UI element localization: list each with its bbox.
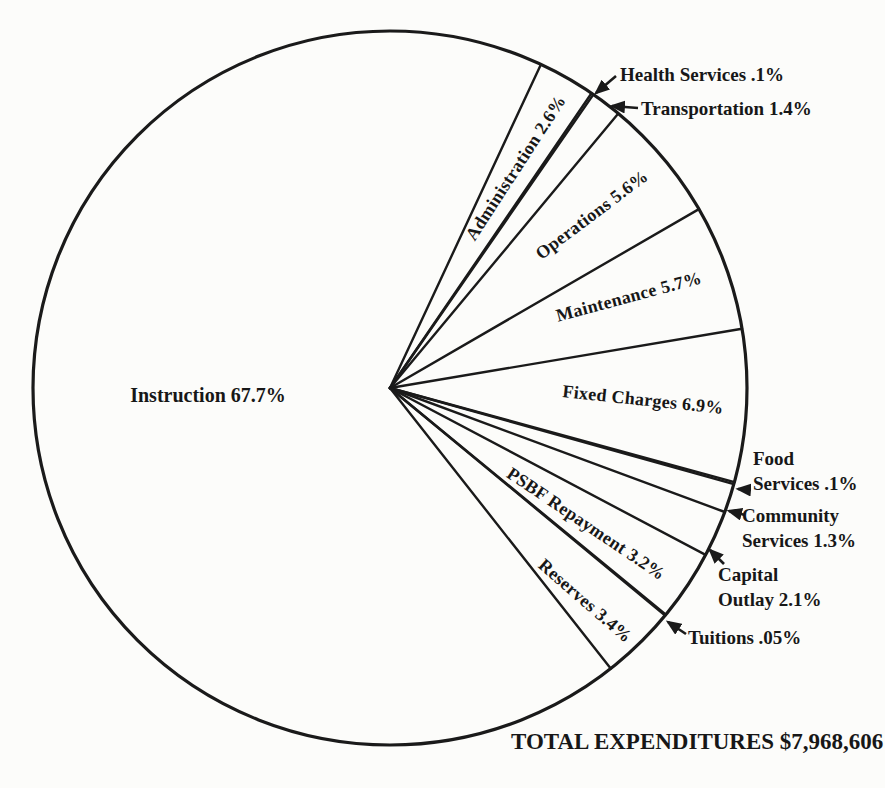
callout-label-food-services-line2: Services .1% [753,471,857,496]
callout-label-community-services-line2: Services 1.3% [742,528,856,553]
callout-label-capital-outlay-line1: Capital [718,562,821,587]
total-expenditures-label: TOTAL EXPENDITURES $7,968,606 [511,729,883,755]
transportation-arrow [612,106,638,108]
slice-boundary-line [390,114,618,388]
tuitions-arrow [668,622,686,634]
callout-label-community-services-line1: Community [742,503,856,528]
callout-label-tuitions: Tuitions .05% [688,625,801,650]
callout-label-food-services-line1: Food [753,446,857,471]
callout-label-food-services: Food Services .1% [753,446,857,496]
slice-boundary-line [390,388,665,616]
health-services-arrow [596,76,616,93]
pie-chart-figure: Instruction 67.7% Administration 2.6% Op… [0,0,885,788]
callout-label-transportation: Transportation 1.4% [641,96,812,121]
food-services-arrow [738,489,751,490]
slice-label-instruction: Instruction 67.7% [130,384,286,407]
callout-label-capital-outlay-line2: Outlay 2.1% [718,587,821,612]
callout-label-health-services: Health Services .1% [620,62,784,87]
callout-label-community-services: Community Services 1.3% [742,503,856,553]
callout-label-capital-outlay: Capital Outlay 2.1% [718,562,821,612]
slice-boundary-line [390,388,706,555]
